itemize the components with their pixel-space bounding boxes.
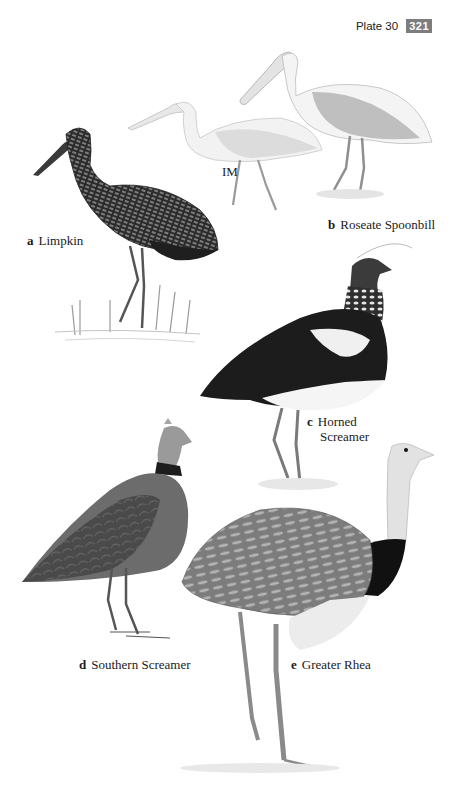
species-letter: c	[307, 414, 313, 429]
species-letter: d	[79, 657, 86, 672]
southern-screamer-illustration	[22, 418, 192, 638]
species-name-line1: Horned	[318, 414, 357, 429]
species-label-roseate-spoonbill: bRoseate Spoonbill	[328, 217, 435, 232]
horned-screamer-illustration	[200, 244, 412, 490]
species-name: Roseate Spoonbill	[340, 217, 435, 232]
species-letter: b	[328, 217, 335, 232]
spoonbill-immature-label: IM	[222, 164, 238, 179]
species-letter: e	[291, 657, 297, 672]
species-label-limpkin: aLimpkin	[27, 233, 83, 248]
field-guide-plate-page: Plate 30 321	[0, 0, 462, 804]
species-label-greater-rhea: eGreater Rhea	[291, 657, 371, 672]
greater-rhea-illustration	[180, 443, 434, 773]
species-label-horned-screamer: cHorned Screamer	[307, 414, 369, 444]
species-label-southern-screamer: dSouthern Screamer	[79, 657, 191, 672]
species-name-line2: Screamer	[307, 429, 369, 444]
species-name: Greater Rhea	[302, 657, 371, 672]
species-name: Limpkin	[39, 233, 84, 248]
species-letter: a	[27, 233, 34, 248]
species-name: Southern Screamer	[91, 657, 190, 672]
bird-illustrations	[0, 0, 462, 804]
variant-label: IM	[222, 164, 238, 179]
